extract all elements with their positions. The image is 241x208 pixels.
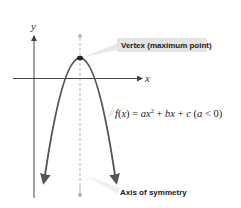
parabola-diagram: y x Vertex (maximum point) f(x) = ax2 + … [0, 0, 241, 208]
function-formula: f(x) = ax2 + bx + c (a < 0) [115, 107, 223, 120]
vertex-callout-pointer [84, 43, 118, 57]
vertex-point [77, 56, 83, 61]
x-axis-label: x [144, 72, 150, 84]
vertex-label: Vertex (maximum point) [121, 41, 212, 50]
axis-of-symmetry-label: Axis of symmetry [120, 188, 187, 197]
formula-callout-pointer [106, 105, 114, 118]
y-axis-label: y [30, 20, 36, 32]
